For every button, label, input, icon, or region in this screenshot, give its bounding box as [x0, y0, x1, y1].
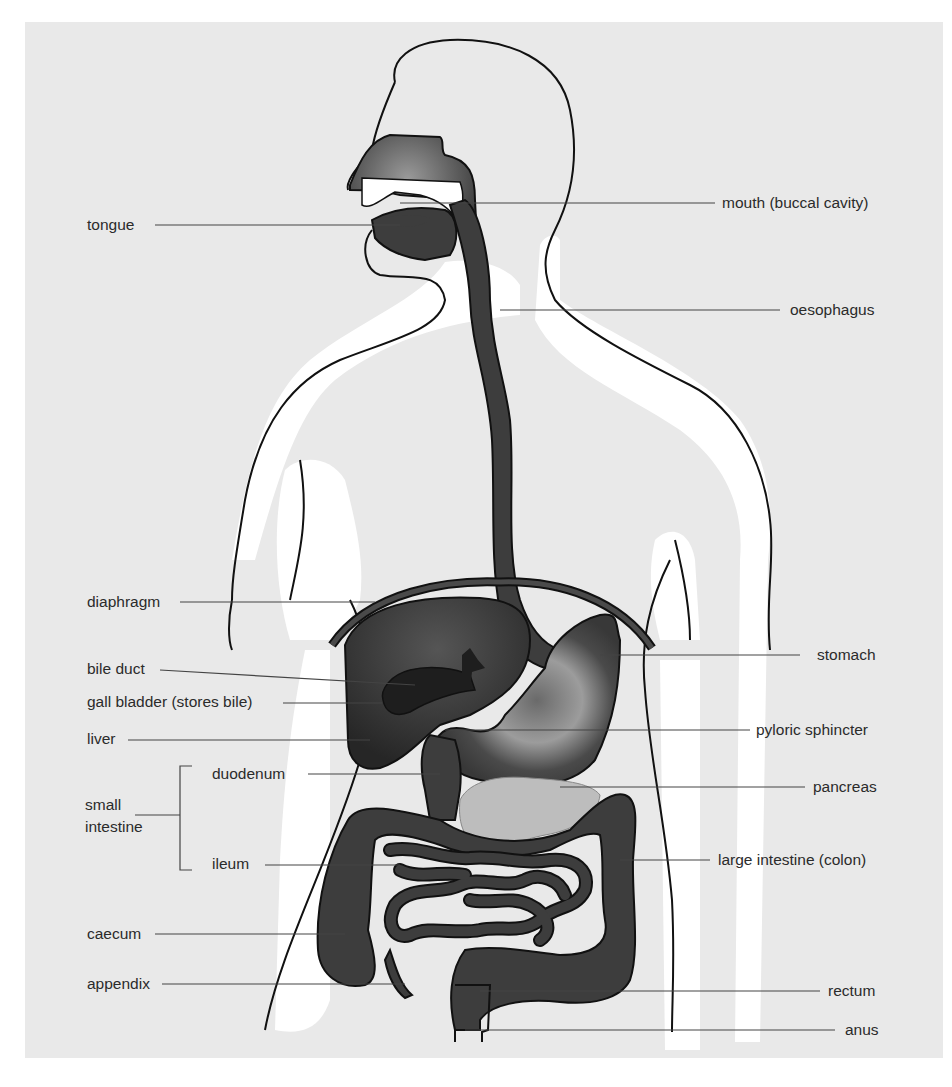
- label-pyloric-sphincter: pyloric sphincter: [756, 721, 868, 739]
- label-ileum: ileum: [212, 855, 249, 873]
- appendix-organ: [385, 950, 412, 998]
- mouth-and-nasal-cavity: [350, 135, 478, 260]
- label-stomach: stomach: [817, 646, 876, 664]
- label-liver: liver: [87, 730, 115, 748]
- label-diaphragm: diaphragm: [87, 593, 160, 611]
- label-small-intestine-line1: small: [85, 796, 121, 814]
- label-appendix: appendix: [87, 975, 150, 993]
- label-anus: anus: [845, 1021, 879, 1039]
- label-gall-bladder: gall bladder (stores bile): [87, 693, 252, 711]
- duodenum-organ: [422, 735, 461, 820]
- label-small-intestine-line2: intestine: [85, 818, 143, 836]
- label-large-intestine: large intestine (colon): [718, 851, 866, 869]
- label-tongue: tongue: [87, 216, 134, 234]
- label-duodenum: duodenum: [212, 765, 285, 783]
- label-mouth: mouth (buccal cavity): [722, 194, 868, 212]
- label-oesophagus: oesophagus: [790, 301, 874, 319]
- label-pancreas: pancreas: [813, 778, 877, 796]
- label-rectum: rectum: [828, 982, 875, 1000]
- label-bile-duct: bile duct: [87, 660, 145, 678]
- label-caecum: caecum: [87, 925, 141, 943]
- digestive-system-illustration: [0, 0, 952, 1087]
